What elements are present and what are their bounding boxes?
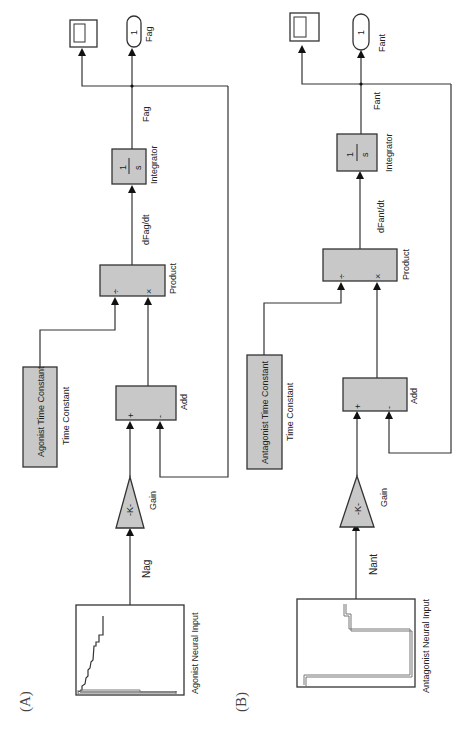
- add-block-b[interactable]: + - Add: [343, 378, 419, 411]
- gain-block-a[interactable]: -K- Gain: [116, 477, 158, 528]
- agonist-time-constant-block[interactable]: Agonist Time Constant Time Constant: [23, 366, 71, 467]
- simulink-diagram: (A) Agonist Neural Input Nag -K- Gain +: [0, 0, 471, 734]
- integrator-b-name: Integrator: [384, 133, 394, 172]
- add-a-name: Add: [179, 394, 189, 410]
- signal-nant-label: Nant: [368, 554, 379, 575]
- gain-block-b[interactable]: -K- Gain: [340, 476, 389, 527]
- antagonist-time-constant-block[interactable]: Antagonist Time Constant Time Constant: [247, 355, 295, 469]
- product-a-port-divide: ÷: [111, 289, 121, 294]
- outport-fag[interactable]: 1 Fag: [127, 16, 154, 47]
- outport-a-number: 1: [129, 30, 139, 35]
- gain-b-value: -K-: [353, 503, 363, 515]
- outport-b-name: Fant: [377, 33, 387, 52]
- source-b-name: Antagonist Neural Input: [421, 598, 431, 693]
- scope-block-a[interactable]: [70, 20, 97, 47]
- signal-fant-label: Fant: [372, 91, 382, 110]
- integrator-a-num: 1: [118, 165, 128, 170]
- time-constant-b-name: Time Constant: [285, 382, 295, 441]
- integrator-block-b[interactable]: 1 s Integrator: [337, 133, 394, 172]
- scope-block-b[interactable]: [290, 13, 319, 41]
- product-a-name: Product: [168, 262, 178, 294]
- time-constant-b-text: Antagonist Time Constant: [260, 360, 270, 464]
- add-a-port-minus: -: [155, 415, 165, 418]
- product-a-port-multiply: ×: [144, 289, 154, 294]
- panel-b: (B) Antagonist Neural Input Nant -K- Gai…: [233, 13, 451, 712]
- add-b-name: Add: [409, 388, 419, 404]
- integrator-block-a[interactable]: 1 s Integrator: [112, 145, 159, 184]
- signal-nag-label: Nag: [141, 560, 152, 578]
- panel-a: (A) Agonist Neural Input Nag -K- Gain +: [17, 16, 228, 712]
- product-block-b[interactable]: ÷ × Product: [323, 248, 411, 281]
- add-block-a[interactable]: + - Add: [116, 386, 189, 420]
- time-constant-a-text: Agonist Time Constant: [36, 366, 46, 457]
- integrator-a-den: s: [133, 165, 143, 170]
- integrator-b-num: 1: [345, 152, 355, 157]
- add-b-port-plus: +: [353, 404, 363, 409]
- gain-a-value: -K-: [125, 504, 135, 516]
- signal-dfant-dt-label: dFant/dt: [376, 199, 386, 233]
- outport-fant[interactable]: 1 Fant: [353, 14, 387, 52]
- product-b-port-divide: ÷: [337, 274, 347, 279]
- add-b-port-minus: -: [384, 406, 394, 409]
- product-block-a[interactable]: ÷ × Product: [100, 262, 178, 296]
- outport-a-name: Fag: [144, 26, 154, 42]
- antagonist-neural-input-block[interactable]: Antagonist Neural Input: [297, 598, 431, 693]
- source-a-name: Agonist Neural Input: [190, 612, 200, 694]
- product-b-name: Product: [401, 248, 411, 280]
- panel-b-label: (B): [233, 692, 250, 712]
- product-b-port-multiply: ×: [373, 274, 383, 279]
- outport-b-number: 1: [356, 30, 366, 35]
- gain-b-name: Gain: [379, 488, 389, 507]
- integrator-a-name: Integrator: [149, 145, 159, 184]
- add-a-port-plus: +: [126, 413, 136, 418]
- integrator-b-den: s: [360, 152, 370, 157]
- time-constant-a-name: Time Constant: [61, 386, 71, 445]
- gain-a-name: Gain: [148, 491, 158, 510]
- signal-fag-label: Fag: [141, 106, 151, 122]
- agonist-neural-input-block[interactable]: Agonist Neural Input: [76, 605, 200, 695]
- panel-a-label: (A): [17, 691, 34, 712]
- signal-dfag-dt-label: dFag/dt: [141, 214, 151, 245]
